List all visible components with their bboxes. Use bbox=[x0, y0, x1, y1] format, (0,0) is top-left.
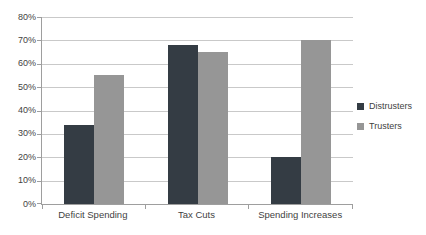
y-axis-tick bbox=[37, 87, 41, 88]
y-axis-tick bbox=[37, 181, 41, 182]
bar-distrusters-spending-increases bbox=[271, 157, 301, 204]
y-axis-tick bbox=[37, 157, 41, 158]
gridline-80 bbox=[42, 17, 353, 18]
x-axis-tick bbox=[248, 205, 249, 209]
x-axis-tick bbox=[145, 205, 146, 209]
y-axis-label-60: 60% bbox=[0, 58, 36, 69]
bar-trusters-tax-cuts bbox=[198, 52, 228, 204]
bar-trusters-spending-increases bbox=[301, 40, 331, 204]
legend-label-trusters: Trusters bbox=[369, 121, 402, 131]
legend-item-trusters: Trusters bbox=[357, 120, 412, 132]
bar-trusters-deficit-spending bbox=[94, 75, 124, 204]
legend-label-distrusters: Distrusters bbox=[369, 101, 412, 111]
legend: DistrustersTrusters bbox=[357, 100, 412, 140]
y-axis-label-30: 30% bbox=[0, 128, 36, 139]
y-axis-tick bbox=[37, 111, 41, 112]
y-axis-label-10: 10% bbox=[0, 175, 36, 186]
plot-area bbox=[41, 17, 353, 205]
y-axis-label-80: 80% bbox=[0, 12, 36, 23]
x-axis-tick bbox=[352, 205, 353, 209]
x-axis-label-deficit-spending: Deficit Spending bbox=[58, 209, 127, 221]
x-axis-label-spending-increases: Spending Increases bbox=[258, 209, 342, 221]
y-axis-tick bbox=[37, 40, 41, 41]
y-axis-label-20: 20% bbox=[0, 152, 36, 163]
y-axis-tick bbox=[37, 134, 41, 135]
y-axis-label-0: 0% bbox=[0, 199, 36, 210]
y-axis-label-40: 40% bbox=[0, 105, 36, 116]
y-axis-label-70: 70% bbox=[0, 35, 36, 46]
legend-swatch-distrusters bbox=[357, 103, 364, 110]
x-axis-label-tax-cuts: Tax Cuts bbox=[178, 209, 215, 221]
bar-distrusters-tax-cuts bbox=[168, 45, 198, 204]
legend-item-distrusters: Distrusters bbox=[357, 100, 412, 112]
y-axis-tick bbox=[37, 203, 41, 204]
legend-swatch-trusters bbox=[357, 123, 364, 130]
bar-chart: DistrustersTrusters 0%10%20%30%40%50%60%… bbox=[0, 0, 426, 235]
y-axis-tick bbox=[37, 17, 41, 18]
y-axis-label-50: 50% bbox=[0, 82, 36, 93]
x-axis-tick bbox=[42, 205, 43, 209]
y-axis-tick bbox=[37, 64, 41, 65]
bar-distrusters-deficit-spending bbox=[64, 125, 94, 204]
